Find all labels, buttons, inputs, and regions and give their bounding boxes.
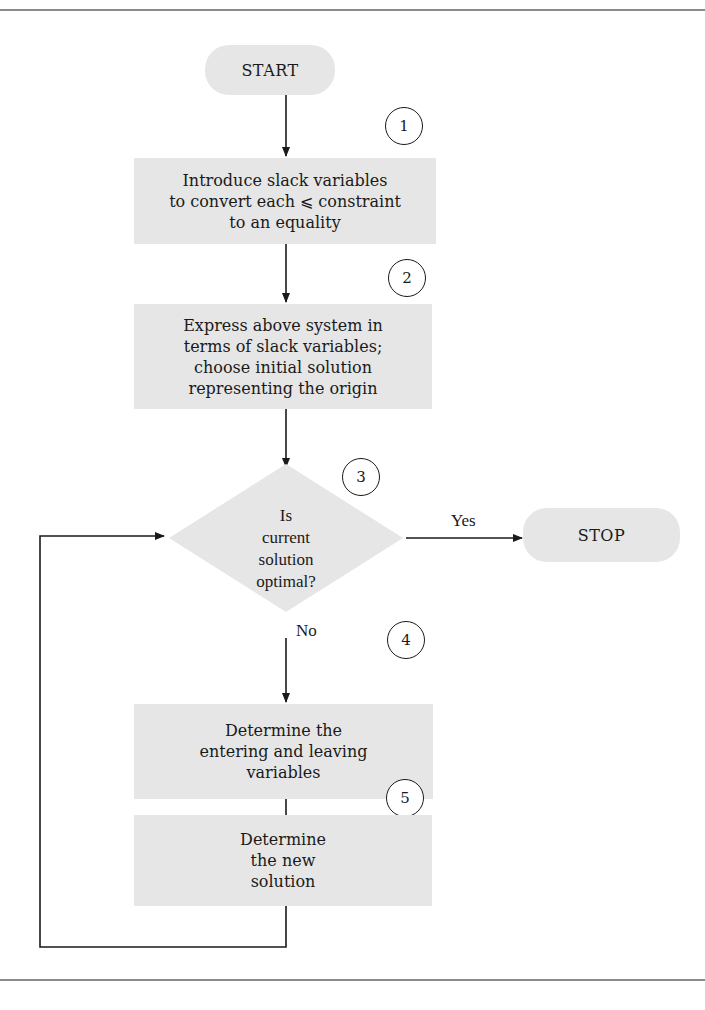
step-2-number: 2 [402, 269, 412, 287]
step-1-box: Introduce slack variables to convert eac… [134, 158, 436, 244]
no-label: No [296, 621, 317, 641]
stop-label: STOP [578, 525, 626, 546]
decision-label: Is current solution optimal? [170, 462, 402, 636]
step-2-box: Express above system in terms of slack v… [134, 304, 432, 409]
start-terminal: START [205, 45, 335, 95]
step-1-number: 1 [399, 117, 409, 135]
step-5-number: 5 [400, 789, 410, 807]
step-5-label: Determine the new solution [240, 829, 326, 892]
step-4-circle: 4 [387, 621, 425, 659]
step-5-circle: 5 [386, 779, 424, 817]
step-2-label: Express above system in terms of slack v… [183, 315, 383, 399]
step-1-label: Introduce slack variables to convert eac… [169, 170, 401, 233]
step-1-circle: 1 [385, 107, 423, 145]
step-4-number: 4 [401, 631, 411, 649]
start-label: START [241, 60, 298, 81]
stop-terminal: STOP [523, 508, 680, 562]
yes-label: Yes [451, 511, 476, 531]
step-4-box: Determine the entering and leaving varia… [134, 704, 433, 799]
step-5-box: Determine the new solution [134, 815, 432, 906]
step-2-circle: 2 [388, 259, 426, 297]
step-4-label: Determine the entering and leaving varia… [199, 720, 367, 783]
